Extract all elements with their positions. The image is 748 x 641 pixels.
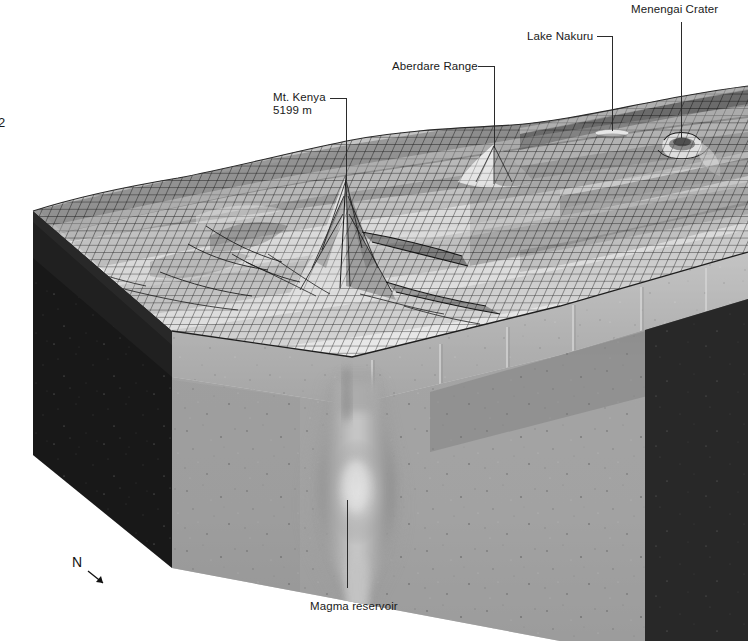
block-diagram-scene: Mt. Kenya 5199 m Aberdare Range Lake Nak… (0, 0, 748, 641)
label-magma-reservoir: Magma reservoir (310, 600, 398, 612)
block-diagram-figure: Mt. Kenya 5199 m Aberdare Range Lake Nak… (0, 0, 748, 641)
label-menengai-crater: Menengai Crater (631, 3, 718, 15)
arrow-down-right-icon (88, 571, 103, 583)
label-mt-kenya-line2: 5199 m (273, 104, 312, 116)
label-lake-nakuru: Lake Nakuru (527, 30, 593, 42)
label-mt-kenya-line1: Mt. Kenya (273, 91, 326, 103)
block-right-face (645, 299, 748, 641)
compass-indicator: N (72, 554, 103, 583)
page-number: 2 (0, 115, 5, 130)
compass-north-letter: N (72, 554, 82, 570)
label-aberdare-range: Aberdare Range (392, 60, 478, 72)
